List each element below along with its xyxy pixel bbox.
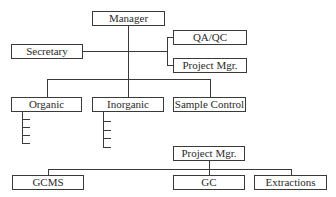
node-secretary: Secretary <box>11 44 83 59</box>
node-project-mgr-bottom: Project Mgr. <box>173 146 245 161</box>
node-organic: Organic <box>11 97 82 112</box>
node-gc: GC <box>173 175 245 190</box>
node-project-mgr-top: Project Mgr. <box>173 58 247 73</box>
node-manager: Manager <box>92 11 165 26</box>
node-sample-control: Sample Control <box>173 97 246 112</box>
node-extractions: Extractions <box>254 175 327 190</box>
node-inorganic: Inorganic <box>92 97 164 112</box>
node-qa-qc: QA/QC <box>173 30 247 45</box>
node-gcms: GCMS <box>12 175 84 190</box>
